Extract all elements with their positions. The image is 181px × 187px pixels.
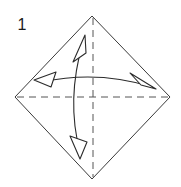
step-number-label: 1 xyxy=(18,16,27,33)
origami-diagram-figure: 1 xyxy=(0,0,181,187)
origami-diagram-canvas: 1 xyxy=(0,0,181,187)
